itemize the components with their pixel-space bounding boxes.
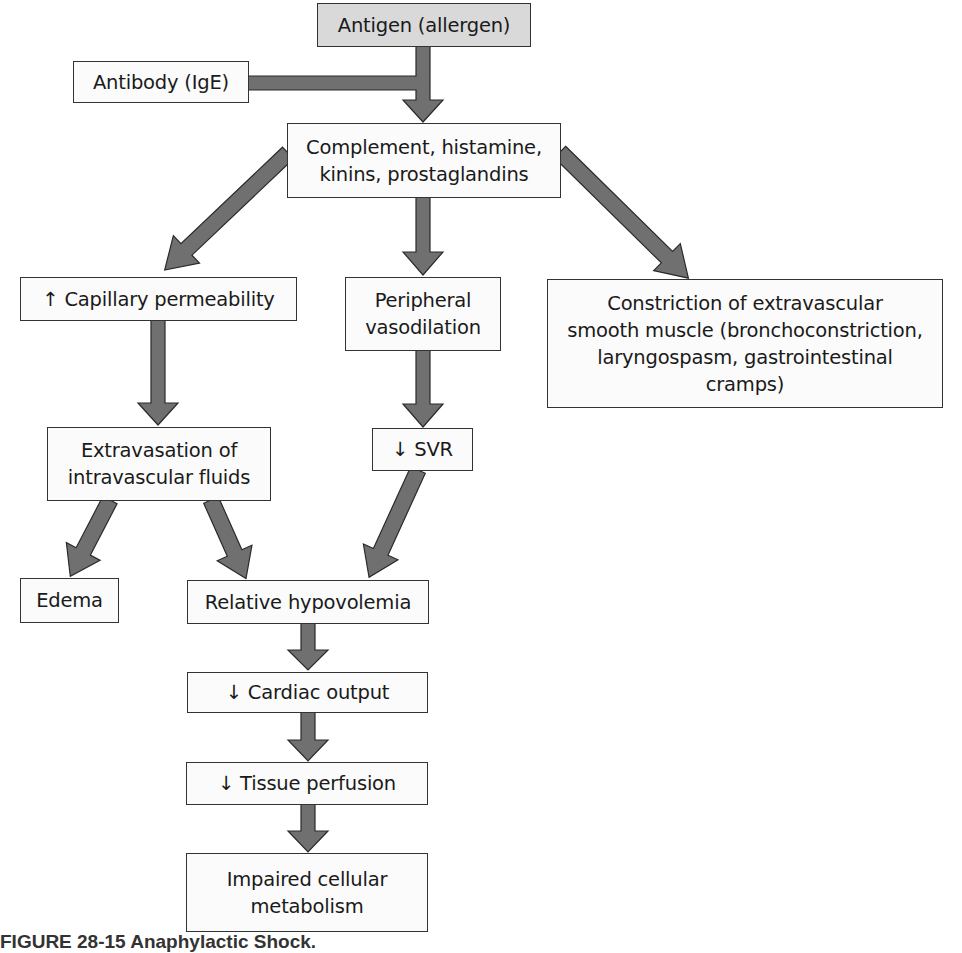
node-constriction-line1: Constriction of extravascular bbox=[607, 290, 883, 317]
node-peripheral-vasodilation: Peripheral vasodilation bbox=[345, 277, 501, 351]
node-vasodilation-line2: vasodilation bbox=[365, 314, 481, 341]
node-cardiac-output: ↓ Cardiac output bbox=[187, 672, 428, 713]
node-constriction-line4: cramps) bbox=[706, 371, 784, 398]
arrow-mediators-to-constriction bbox=[547, 138, 702, 291]
node-impaired-line1: Impaired cellular bbox=[227, 866, 388, 893]
node-extravasation-line2: intravascular fluids bbox=[68, 464, 250, 491]
node-tissue-perfusion: ↓ Tissue perfusion bbox=[186, 762, 428, 805]
arrow-perfusion-to-impaired bbox=[288, 804, 328, 852]
arrow-capillary-to-extravasation bbox=[138, 320, 178, 425]
node-vasodilation-line1: Peripheral bbox=[375, 287, 472, 314]
node-impaired-line2: metabolism bbox=[251, 893, 364, 920]
node-edema: Edema bbox=[20, 578, 119, 623]
node-antigen-label: Antigen (allergen) bbox=[338, 12, 511, 39]
arrow-cardiac-to-perfusion bbox=[288, 712, 328, 761]
node-impaired-metabolism: Impaired cellular metabolism bbox=[186, 853, 428, 932]
arrow-antigen-to-mediators bbox=[248, 46, 443, 122]
node-svr: ↓ SVR bbox=[372, 428, 473, 471]
node-antibody: Antibody (IgE) bbox=[73, 61, 249, 103]
node-constriction-line2: smooth muscle (bronchoconstriction, bbox=[567, 317, 922, 344]
arrow-mediators-to-capillary bbox=[152, 139, 301, 284]
node-svr-label: ↓ SVR bbox=[392, 436, 453, 463]
node-constriction-line3: laryngospasm, gastrointestinal bbox=[597, 344, 893, 371]
node-capillary-permeability: ↑ Capillary permeability bbox=[20, 277, 297, 321]
node-relative-hypovolemia: Relative hypovolemia bbox=[187, 580, 429, 624]
node-extravasation-line1: Extravasation of bbox=[81, 437, 237, 464]
node-extravasation: Extravasation of intravascular fluids bbox=[47, 427, 271, 501]
node-capillary-label: ↑ Capillary permeability bbox=[42, 286, 274, 313]
figure-caption: FIGURE 28-15 Anaphylactic Shock. bbox=[0, 931, 316, 953]
arrow-extravasation-to-hypovolemia bbox=[194, 492, 264, 586]
arrow-vasodilation-to-svr bbox=[403, 350, 443, 427]
node-hypovolemia-label: Relative hypovolemia bbox=[205, 589, 411, 616]
node-cardiac-label: ↓ Cardiac output bbox=[226, 679, 390, 706]
node-mediators-line1: Complement, histamine, bbox=[306, 134, 542, 161]
arrow-mediators-to-vasodilation bbox=[403, 197, 443, 275]
node-smooth-muscle-constriction: Constriction of extravascular smooth mus… bbox=[547, 279, 943, 408]
node-antigen: Antigen (allergen) bbox=[317, 3, 531, 47]
node-mediators: Complement, histamine, kinins, prostagla… bbox=[287, 123, 561, 198]
arrow-svr-to-hypovolemia bbox=[352, 462, 436, 585]
node-mediators-line2: kinins, prostaglandins bbox=[319, 161, 528, 188]
arrow-hypovolemia-to-cardiac bbox=[288, 623, 328, 670]
node-perfusion-label: ↓ Tissue perfusion bbox=[218, 770, 396, 797]
node-edema-label: Edema bbox=[36, 587, 103, 614]
node-antibody-label: Antibody (IgE) bbox=[93, 69, 229, 96]
arrow-extravasation-to-edema bbox=[53, 491, 126, 585]
